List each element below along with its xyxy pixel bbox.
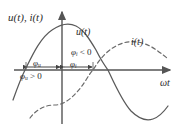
i-curve: [30, 42, 167, 118]
phi-i-marker-label: φi: [70, 60, 77, 70]
y-axis-label: u(t), i(t): [8, 12, 43, 23]
phi-u-condition-label: φu > 0: [20, 72, 42, 82]
u-curve-label: u(t): [76, 27, 90, 37]
phi-i-condition-label: φi < 0: [71, 48, 92, 58]
phase-diagram-figure: u(t), i(t) ωt u(t) i(t) φi < 0 φu φi φu …: [0, 0, 181, 132]
phi-u-marker-label: φu: [33, 59, 41, 69]
x-axis-label: ωt: [160, 78, 170, 88]
i-curve-label: i(t): [131, 37, 143, 47]
